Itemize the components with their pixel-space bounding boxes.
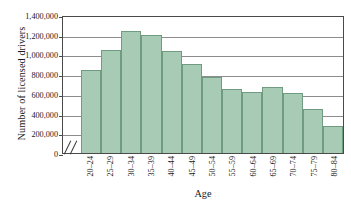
x-axis-tick-cell: 75–79: [303, 156, 323, 190]
x-axis-tick-label: 70–74: [289, 156, 298, 176]
x-axis-tick-label: 30–34: [126, 156, 135, 176]
bar: [121, 31, 141, 153]
histogram-figure: Number of licensed drivers 0200,000400,0…: [0, 0, 351, 205]
x-axis-tick-label: 65–69: [268, 156, 277, 176]
bar: [303, 109, 323, 153]
bar: [141, 35, 161, 153]
y-axis-tick-label: 600,000: [31, 90, 58, 99]
y-axis-tick-label: 1,200,000: [25, 31, 58, 40]
y-axis-tick-label: 1,000,000: [25, 51, 58, 60]
y-axis-tick-label: 400,000: [31, 110, 58, 119]
x-axis-tick-cell: 35–39: [141, 156, 161, 190]
y-axis-tick-mark: [59, 116, 63, 117]
bar: [222, 89, 242, 153]
bar-series: [81, 17, 343, 153]
x-axis-tick-cell: 70–74: [283, 156, 303, 190]
x-axis-tick-cell: 80–84: [324, 156, 344, 190]
bar: [262, 87, 282, 153]
x-axis-tick-labels: 20–2425–2930–3435–3940–4445–4950–5455–59…: [80, 156, 344, 190]
x-axis-tick-cell: 30–34: [121, 156, 141, 190]
y-axis-tick-mark: [59, 96, 63, 97]
y-axis-tick-mark: [59, 56, 63, 57]
y-axis-tick-mark: [59, 135, 63, 136]
bar: [283, 93, 303, 153]
x-axis-tick-cell: 45–49: [182, 156, 202, 190]
y-axis-tick-label: 0: [54, 150, 58, 159]
x-axis-tick-label: 50–54: [208, 156, 217, 176]
bar: [323, 126, 343, 153]
x-axis-title: Age: [62, 188, 344, 199]
x-axis-tick-cell: 20–24: [80, 156, 100, 190]
x-axis-tick-cell: 65–69: [263, 156, 283, 190]
bar: [81, 70, 101, 153]
x-axis-tick-cell: 25–29: [100, 156, 120, 190]
bar: [242, 92, 262, 153]
x-axis-tick-cell: 40–44: [161, 156, 181, 190]
y-axis-tick-labels: 0200,000400,000600,000800,0001,000,0001,…: [16, 0, 60, 205]
x-axis-tick-label: 75–79: [309, 156, 318, 176]
x-axis-tick-cell: 50–54: [202, 156, 222, 190]
y-axis-tick-mark: [59, 76, 63, 77]
x-axis-tick-label: 25–29: [106, 156, 115, 176]
x-axis-tick-cell: 60–64: [243, 156, 263, 190]
bar: [101, 50, 121, 154]
x-axis-tick-label: 40–44: [167, 156, 176, 176]
x-axis-tick-label: 35–39: [147, 156, 156, 176]
y-axis-tick-mark: [59, 37, 63, 38]
x-axis-tick-cell: 55–59: [222, 156, 242, 190]
bar: [202, 77, 222, 153]
y-axis-tick-label: 800,000: [31, 71, 58, 80]
x-axis-tick-label: 55–59: [228, 156, 237, 176]
x-axis-tick-label: 45–49: [187, 156, 196, 176]
y-axis-tick-label: 200,000: [31, 130, 58, 139]
x-axis-tick-label: 60–64: [248, 156, 257, 176]
y-axis-tick-label: 1,400,000: [25, 12, 58, 21]
x-axis-tick-label: 80–84: [329, 156, 338, 176]
bar: [182, 64, 202, 153]
plot-area: [62, 16, 344, 154]
y-axis-tick-mark: [59, 17, 63, 18]
x-axis-tick-label: 20–24: [86, 156, 95, 176]
bar: [162, 51, 182, 153]
